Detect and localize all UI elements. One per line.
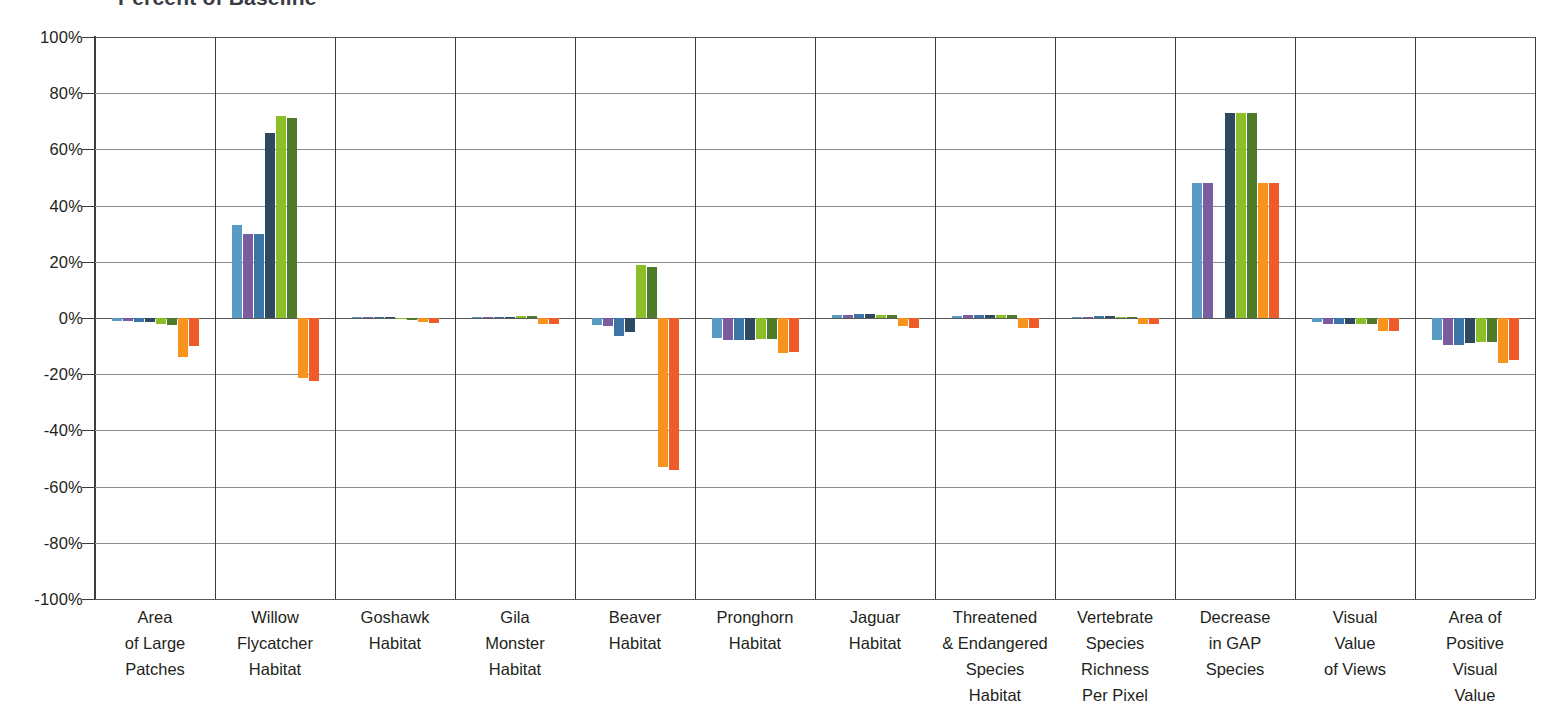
bar (1498, 318, 1508, 363)
bar (669, 318, 679, 470)
x-axis-category-label: JaguarHabitat (815, 604, 935, 656)
bar (865, 314, 875, 318)
x-axis-category-label-line: Willow (215, 604, 335, 630)
bar (189, 318, 199, 346)
bar (232, 225, 242, 318)
category-separator (1175, 37, 1176, 599)
y-axis-tick-label: 40% (49, 196, 83, 215)
gridline (95, 599, 1535, 600)
bar (1367, 318, 1377, 324)
y-axis-tick-mark (82, 149, 94, 150)
bar (592, 318, 602, 325)
x-axis-category-label-line: Flycatcher (215, 630, 335, 656)
bar (1105, 316, 1115, 318)
bar (1345, 318, 1355, 324)
bar (1509, 318, 1519, 360)
bar-group (952, 37, 1039, 599)
bar (1072, 317, 1082, 318)
bar (1323, 318, 1333, 324)
x-axis-category-label-line: Decrease (1175, 604, 1295, 630)
bar (1203, 183, 1213, 318)
x-axis-category-label-line: Value (1415, 682, 1535, 708)
bar (898, 318, 908, 326)
x-axis-category-label-line: Habitat (815, 630, 935, 656)
bar (1029, 318, 1039, 328)
bar (178, 318, 188, 357)
x-axis-category-label-line: Habitat (455, 656, 575, 682)
y-axis-tick-mark (82, 318, 94, 319)
y-axis-tick-label: -60% (44, 477, 83, 496)
bar (123, 318, 133, 321)
bar-group (232, 37, 319, 599)
x-axis-category-label: WillowFlycatcherHabitat (215, 604, 335, 682)
x-axis-category-label: Areaof LargePatches (95, 604, 215, 682)
bar (614, 318, 624, 336)
bar (254, 234, 264, 318)
x-axis-category-label-line: Vertebrate (1055, 604, 1175, 630)
bar (396, 318, 406, 319)
y-axis-tick-mark (82, 487, 94, 488)
bar-group (112, 37, 199, 599)
bar (265, 133, 275, 318)
bar (909, 318, 919, 328)
bar (494, 317, 504, 318)
bar-group (472, 37, 559, 599)
bar (658, 318, 668, 467)
x-axis-category-label: VertebrateSpeciesRichnessPer Pixel (1055, 604, 1175, 708)
x-axis-category-label: Threatened& EndangeredSpeciesHabitat (935, 604, 1055, 708)
x-axis-category-label-line: Per Pixel (1055, 682, 1175, 708)
x-axis-category-label-line: Area (95, 604, 215, 630)
category-separator (1415, 37, 1416, 599)
x-axis-category-label: GilaMonsterHabitat (455, 604, 575, 682)
bar (767, 318, 777, 339)
bar (1269, 183, 1279, 318)
category-separator (935, 37, 936, 599)
bar (1116, 317, 1126, 318)
y-axis-tick-label: -40% (44, 421, 83, 440)
x-axis-category-label-line: of Large (95, 630, 215, 656)
bar-group (1072, 37, 1159, 599)
bar (156, 318, 166, 324)
bar (789, 318, 799, 352)
bar (1389, 318, 1399, 331)
bar (985, 315, 995, 318)
bar (887, 315, 897, 318)
chart-title: Percent of Baseline (118, 0, 317, 10)
bar (745, 318, 755, 340)
bar (734, 318, 744, 340)
bar (418, 318, 428, 322)
bar-group (1432, 37, 1519, 599)
bar-group (1312, 37, 1399, 599)
bar (516, 316, 526, 318)
bar (167, 318, 177, 325)
x-axis-category-label-line: Visual (1295, 604, 1415, 630)
bar (778, 318, 788, 353)
bar-group (1192, 37, 1279, 599)
bar-group (712, 37, 799, 599)
bar (1465, 318, 1475, 343)
bar (647, 267, 657, 318)
x-axis-category-label-line: Habitat (935, 682, 1055, 708)
bar (1094, 316, 1104, 318)
bar (1236, 113, 1246, 318)
x-axis-category-label-line: Area of (1415, 604, 1535, 630)
bar (287, 118, 297, 318)
bar (1356, 318, 1366, 324)
bar (1018, 318, 1028, 328)
y-axis-tick-label: -80% (44, 533, 83, 552)
x-axis-category-label-line: Richness (1055, 656, 1175, 682)
bar (374, 317, 384, 318)
y-axis-tick-mark (82, 430, 94, 431)
bar (1138, 318, 1148, 324)
x-axis-category-label-line: Monster (455, 630, 575, 656)
x-axis-category-label-line: Threatened (935, 604, 1055, 630)
x-axis-category-label-line: Habitat (695, 630, 815, 656)
x-axis-category-label: PronghornHabitat (695, 604, 815, 656)
bar (1247, 113, 1257, 318)
x-axis-category-label: Decreasein GAPSpecies (1175, 604, 1295, 682)
bar (527, 316, 537, 318)
bar (298, 318, 308, 378)
bar (1083, 317, 1093, 318)
y-axis-tick-label: 20% (49, 252, 83, 271)
bar (1454, 318, 1464, 345)
